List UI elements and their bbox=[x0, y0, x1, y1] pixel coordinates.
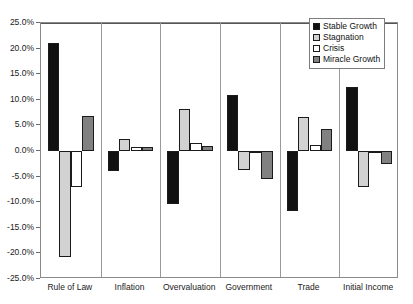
legend-label: Stagnation bbox=[323, 33, 364, 42]
x-tick-label: Inflation bbox=[100, 283, 160, 292]
legend-label: Stable Growth bbox=[323, 22, 377, 31]
x-tick-label: Overvaluation bbox=[159, 283, 219, 292]
bar bbox=[298, 117, 309, 151]
x-tick-label: Rule of Law bbox=[40, 283, 100, 292]
category-separator bbox=[160, 23, 161, 277]
legend-item[interactable]: Stagnation bbox=[313, 32, 380, 43]
bar bbox=[238, 151, 249, 170]
legend-swatch-icon bbox=[313, 34, 320, 41]
legend-item[interactable]: Crisis bbox=[313, 43, 380, 54]
legend-label: Miracle Growth bbox=[323, 55, 380, 64]
bar bbox=[227, 95, 238, 151]
bar bbox=[142, 147, 153, 151]
bar bbox=[179, 109, 190, 151]
bar bbox=[167, 151, 178, 204]
bar bbox=[346, 87, 357, 151]
bar bbox=[358, 151, 369, 187]
bar bbox=[190, 143, 201, 151]
legend-item[interactable]: Stable Growth bbox=[313, 21, 380, 32]
y-tick-label: -5.0% bbox=[0, 172, 34, 181]
legend-swatch-icon bbox=[313, 23, 320, 30]
category-separator bbox=[220, 23, 221, 277]
y-tick-label: 25.0% bbox=[0, 18, 34, 27]
y-tick-label: 10.0% bbox=[0, 95, 34, 104]
bar bbox=[261, 151, 272, 179]
bar bbox=[381, 151, 392, 164]
legend-swatch-icon bbox=[313, 56, 320, 63]
y-tick-mark bbox=[36, 278, 40, 279]
y-tick-label: -10.0% bbox=[0, 197, 34, 206]
category-separator bbox=[101, 23, 102, 277]
y-tick-label: -15.0% bbox=[0, 223, 34, 232]
bar bbox=[59, 151, 70, 257]
bar bbox=[250, 151, 261, 153]
x-tick-label: Trade bbox=[279, 283, 339, 292]
bar bbox=[108, 151, 119, 171]
legend-label: Crisis bbox=[323, 44, 344, 53]
y-tick-label: 0.0% bbox=[0, 146, 34, 155]
bar bbox=[287, 151, 298, 211]
bar bbox=[71, 151, 82, 187]
bar bbox=[131, 147, 142, 151]
legend-swatch-icon bbox=[313, 45, 320, 52]
y-tick-label: 5.0% bbox=[0, 120, 34, 129]
x-tick-label: Government bbox=[219, 283, 279, 292]
y-tick-label: 15.0% bbox=[0, 69, 34, 78]
bar bbox=[48, 43, 59, 151]
bar bbox=[369, 151, 380, 153]
bar bbox=[202, 146, 213, 151]
y-tick-label: -25.0% bbox=[0, 274, 34, 283]
category-separator bbox=[280, 23, 281, 277]
y-tick-label: 20.0% bbox=[0, 44, 34, 53]
legend: Stable GrowthStagnationCrisisMiracle Gro… bbox=[309, 18, 385, 69]
bar bbox=[119, 139, 130, 151]
bar-chart: 25.0%20.0%15.0%10.0%5.0%0.0%-5.0%-10.0%-… bbox=[0, 0, 413, 304]
bar bbox=[82, 116, 93, 151]
bar bbox=[321, 129, 332, 151]
legend-item[interactable]: Miracle Growth bbox=[313, 54, 380, 65]
y-tick-label: -20.0% bbox=[0, 248, 34, 257]
x-tick-label: Initial Income bbox=[338, 283, 398, 292]
bar bbox=[310, 145, 321, 151]
